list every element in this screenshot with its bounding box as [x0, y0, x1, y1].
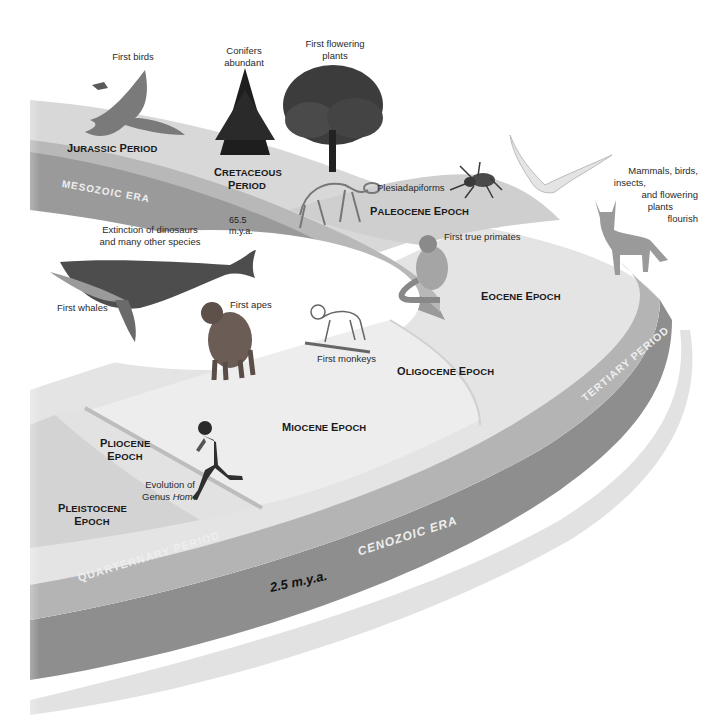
- epoch-word-rest: POCH: [82, 516, 110, 527]
- label-first-apes: First apes: [230, 299, 272, 311]
- label-conifers-line2: abundant: [214, 57, 274, 69]
- period-initial: P: [119, 142, 126, 154]
- plesiadapiform-skeleton-icon: [300, 183, 380, 228]
- lemur-icon: [402, 235, 448, 300]
- conifer-tree-icon: [215, 68, 275, 155]
- label-mammals-line4: plants: [600, 201, 698, 213]
- epoch-rest: LIOCENE: [107, 438, 150, 449]
- label-first-birds: First birds: [93, 51, 173, 63]
- pliocene-line2: EPOCH: [100, 450, 150, 463]
- epoch-rest: LIGOCENE: [406, 366, 459, 377]
- label-evolution-homo: Evolution of Genus Homo: [140, 479, 200, 503]
- epoch-initial: O: [397, 365, 406, 377]
- label-first-whales: First whales: [57, 302, 108, 314]
- monkey-skeleton-icon: [305, 305, 370, 352]
- label-mammals-flourish: Mammals, birds, insects, and flowering p…: [600, 165, 698, 225]
- label-cretaceous-period: CRETACEOUS PERIOD: [214, 166, 280, 192]
- seagull-icon: [510, 135, 612, 193]
- label-flowering-line1: First flowering: [295, 38, 375, 50]
- geologic-time-diagram: First birds Conifers abundant First flow…: [0, 0, 703, 715]
- epoch-word-rest: POCH: [115, 451, 143, 462]
- cretaceous-initial: C: [214, 166, 222, 178]
- pleistocene-line2: EPOCH: [58, 515, 126, 528]
- label-oligocene-epoch: OLIGOCENE EPOCH: [397, 365, 494, 378]
- flowering-tree-icon: [283, 65, 383, 172]
- epoch-rest: ALEOCENE: [377, 206, 433, 217]
- label-mammals-line3: and flowering: [600, 189, 698, 201]
- jurassic-rest: URASSIC: [73, 143, 116, 154]
- label-jurassic-period: JURASSIC PERIOD: [67, 142, 157, 155]
- period-rest: ERIOD: [235, 180, 266, 191]
- epoch-word-rest: POCH: [441, 206, 469, 217]
- label-mammals-line1: Mammals, birds,: [600, 165, 698, 177]
- label-pleistocene-epoch: PLEISTOCENE EPOCH: [58, 502, 126, 528]
- epoch-word-rest: POCH: [338, 422, 366, 433]
- epoch-word-initial: E: [107, 450, 114, 462]
- label-homo-line2: Genus Homo: [140, 491, 200, 503]
- label-first-true-primates: First true primates: [444, 231, 521, 243]
- label-mammals-line5: flourish: [600, 213, 698, 225]
- marker-65-5-unit: m.y.a.: [229, 226, 253, 237]
- label-extinction-line1: Extinction of dinosaurs: [90, 224, 210, 236]
- marker-65-5-mya: 65.5 m.y.a.: [229, 215, 253, 237]
- label-plesiadapiforms: Plesiadapiforms: [377, 182, 445, 194]
- label-miocene-epoch: MIOCENE EPOCH: [282, 421, 366, 434]
- epoch-rest: IOCENE: [291, 422, 331, 433]
- label-homo-line1: Evolution of: [140, 479, 200, 491]
- label-mammals-line2: insects,: [600, 177, 698, 189]
- cretaceous-line2: PERIOD: [214, 179, 280, 192]
- label-homo-name: Homo: [173, 491, 198, 502]
- cretaceous-rest: RETACEOUS: [222, 167, 282, 178]
- label-eocene-epoch: EOCENE EPOCH: [481, 290, 561, 303]
- pliocene-line1: PLIOCENE: [100, 437, 150, 450]
- label-extinction: Extinction of dinosaurs and many other s…: [90, 224, 210, 248]
- spider-icon: [450, 162, 502, 198]
- epoch-rest: LEISTOCENE: [65, 503, 127, 514]
- label-conifers-line1: Conifers: [214, 45, 274, 57]
- label-extinction-line2: and many other species: [90, 236, 210, 248]
- label-first-monkeys: First monkeys: [317, 353, 376, 365]
- period-rest: ERIOD: [127, 143, 158, 154]
- cretaceous-line1: CRETACEOUS: [214, 166, 280, 179]
- epoch-initial: M: [282, 421, 291, 433]
- marker-65-5-value: 65.5: [229, 215, 253, 226]
- label-conifers: Conifers abundant: [214, 45, 274, 69]
- epoch-word-rest: POCH: [466, 366, 494, 377]
- label-flowering-line2: plants: [295, 50, 375, 62]
- epoch-word-rest: POCH: [533, 291, 561, 302]
- label-pliocene-epoch: PLIOCENE EPOCH: [100, 437, 150, 463]
- label-homo-genus: Genus: [142, 491, 173, 502]
- archaeopteryx-icon: [85, 70, 185, 136]
- label-first-flowering-plants: First flowering plants: [295, 38, 375, 62]
- epoch-word-initial: E: [525, 290, 532, 302]
- pleistocene-line1: PLEISTOCENE: [58, 502, 126, 515]
- chimpanzee-icon: [201, 302, 253, 380]
- epoch-word-initial: E: [74, 515, 81, 527]
- label-paleocene-epoch: PALEOCENE EPOCH: [370, 205, 469, 218]
- epoch-rest: OCENE: [488, 291, 525, 302]
